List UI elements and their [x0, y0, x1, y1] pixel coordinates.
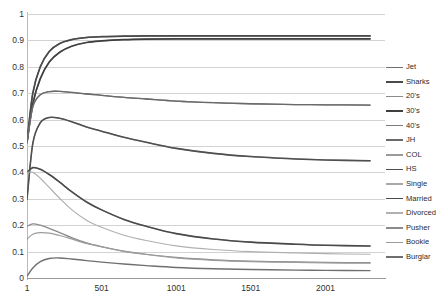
- legend-swatch-line-icon: [386, 67, 403, 69]
- x-axis-line: [27, 278, 386, 279]
- y-tick-label: 1: [0, 10, 24, 19]
- y-tick-label: 0.2: [0, 221, 24, 230]
- legend-item-30-s[interactable]: 30's: [386, 104, 439, 119]
- x-tick-label: 2001: [316, 284, 335, 293]
- legend-item-divorced[interactable]: Divorced: [386, 206, 439, 221]
- y-tick-label: 0.6: [0, 116, 24, 125]
- legend-item-20-s[interactable]: 20's: [386, 89, 439, 104]
- legend-label: 30's: [406, 107, 420, 115]
- page-artifact: [2, 298, 72, 304]
- series-line-40-s: [27, 91, 370, 142]
- legend-item-pusher[interactable]: Pusher: [386, 221, 439, 236]
- series-line-col: [27, 117, 370, 199]
- y-tick-label: 0.8: [0, 63, 24, 72]
- legend-swatch-line-icon: [386, 256, 403, 258]
- legend-label: Single: [406, 180, 427, 188]
- series-line-jet: [27, 36, 370, 142]
- legend-swatch-line-icon: [386, 96, 403, 98]
- y-tick-label: 0.4: [0, 168, 24, 177]
- x-tick-label: 1501: [241, 284, 260, 293]
- legend-label: Jet: [406, 63, 416, 71]
- legend-label: 40's: [406, 122, 420, 130]
- series-line-single: [27, 168, 370, 247]
- y-tick-label: 0.5: [0, 142, 24, 151]
- legend-item-jh[interactable]: JH: [386, 133, 439, 148]
- x-tick-label: 1: [25, 284, 30, 293]
- line-chart: 00.10.20.30.40.50.60.70.80.91 1501100115…: [0, 0, 439, 305]
- legend-swatch-line-icon: [386, 227, 403, 229]
- chart-series-layer: [27, 14, 385, 278]
- legend-swatch-line-icon: [386, 81, 403, 83]
- legend-item-burglar[interactable]: Burglar: [386, 250, 439, 265]
- legend-item-bookie[interactable]: Bookie: [386, 235, 439, 250]
- series-line-burglar: [27, 258, 370, 276]
- legend-label: JH: [406, 136, 415, 144]
- legend-swatch-line-icon: [386, 139, 403, 141]
- chart-legend: JetSharks20's30's40'sJHCOLHSSingleMarrie…: [386, 60, 439, 264]
- legend-label: Married: [406, 195, 432, 203]
- legend-item-single[interactable]: Single: [386, 177, 439, 192]
- y-tick-label: 0: [0, 274, 24, 283]
- x-tick-label: 1001: [167, 284, 186, 293]
- series-line-sharks: [27, 36, 370, 142]
- legend-label: 20's: [406, 92, 420, 100]
- legend-label: Divorced: [406, 209, 436, 217]
- legend-swatch-line-icon: [386, 169, 403, 171]
- legend-swatch-line-icon: [386, 110, 403, 112]
- legend-item-hs[interactable]: HS: [386, 162, 439, 177]
- y-tick-label: 0.9: [0, 36, 24, 45]
- x-axis-tick-labels: 1501100115012001: [0, 284, 439, 298]
- legend-swatch-line-icon: [386, 212, 403, 214]
- y-axis-tick-labels: 00.10.20.30.40.50.60.70.80.91: [0, 0, 24, 305]
- legend-item-40-s[interactable]: 40's: [386, 118, 439, 133]
- y-tick-label: 0.3: [0, 195, 24, 204]
- legend-item-jet[interactable]: Jet: [386, 60, 439, 75]
- y-tick-label: 0.7: [0, 89, 24, 98]
- series-line-jh: [27, 91, 370, 142]
- legend-label: Sharks: [406, 78, 430, 86]
- series-line-divorced: [27, 172, 370, 254]
- legend-swatch-line-icon: [386, 242, 403, 244]
- series-line-pusher: [27, 224, 370, 263]
- legend-label: Pusher: [406, 224, 430, 232]
- legend-swatch-line-icon: [386, 183, 403, 185]
- legend-item-sharks[interactable]: Sharks: [386, 75, 439, 90]
- legend-label: HS: [406, 165, 417, 173]
- series-line-hs: [27, 117, 370, 199]
- series-line-30-s: [27, 39, 370, 143]
- legend-swatch-line-icon: [386, 198, 403, 200]
- legend-label: COL: [406, 151, 422, 159]
- legend-swatch-line-icon: [386, 154, 403, 156]
- legend-item-col[interactable]: COL: [386, 148, 439, 163]
- series-line-20-s: [27, 39, 370, 143]
- legend-swatch-line-icon: [386, 125, 403, 127]
- legend-label: Bookie: [406, 238, 429, 246]
- y-tick-label: 0.1: [0, 248, 24, 257]
- legend-item-married[interactable]: Married: [386, 191, 439, 206]
- x-tick-label: 501: [95, 284, 109, 293]
- legend-label: Burglar: [406, 253, 430, 261]
- series-line-married: [27, 168, 370, 247]
